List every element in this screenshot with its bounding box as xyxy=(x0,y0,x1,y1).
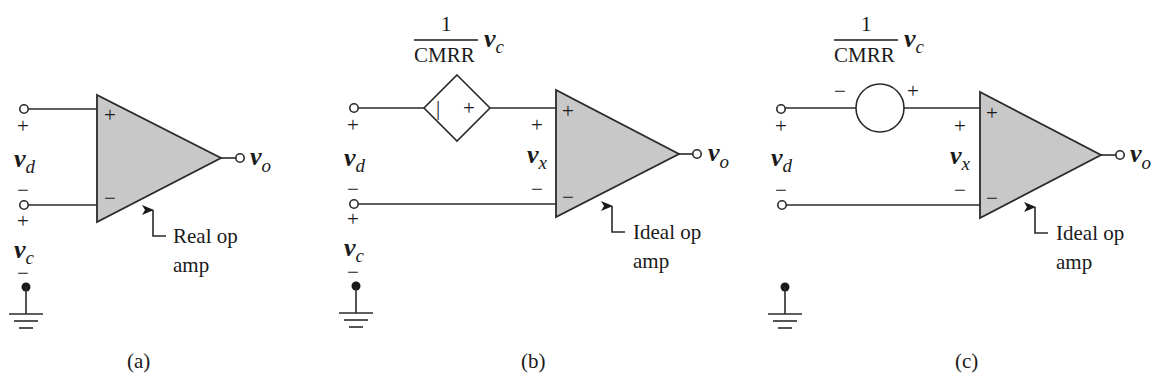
vd-label: vd xyxy=(344,143,366,176)
vx-minus-sign: − xyxy=(531,177,543,201)
panel-b-dependent-source-model: 1 CMRR vc | + + − + vd − + vx − + vc − xyxy=(339,12,729,373)
vx-label: vx xyxy=(527,140,548,173)
annotation-arrow-icon xyxy=(612,206,625,232)
ground-icon xyxy=(9,287,43,328)
fraction-vc: vc xyxy=(484,24,505,57)
vd-minus-sign: − xyxy=(17,178,29,202)
caption-a: (a) xyxy=(127,349,150,373)
vd-label: vd xyxy=(771,143,793,176)
vo-label: vo xyxy=(250,142,271,176)
vd-plus-sign: + xyxy=(347,113,359,137)
vo-label: vo xyxy=(1130,139,1151,173)
fraction-vc: vc xyxy=(904,24,925,57)
source-right-sign: + xyxy=(907,79,919,103)
ground-icon xyxy=(768,287,802,328)
terminal-output[interactable] xyxy=(236,154,244,162)
opamp-plus-sign: + xyxy=(562,99,574,123)
source-left-sign: − xyxy=(834,79,846,103)
vd-label: vd xyxy=(14,144,36,177)
source-right-sign: + xyxy=(463,96,475,120)
vx-label: vx xyxy=(950,141,971,174)
dependent-source-diamond-icon xyxy=(424,75,490,141)
opamp-minus-sign: − xyxy=(562,185,574,209)
terminal-input-minus[interactable] xyxy=(778,201,786,209)
vx-plus-sign: + xyxy=(531,113,543,137)
vd-plus-sign: + xyxy=(17,114,29,138)
opamp-plus-sign: + xyxy=(104,103,116,127)
fraction-numerator: 1 xyxy=(441,12,452,36)
annotation-ideal-op: Ideal op xyxy=(1056,221,1124,245)
annotation-arrow-icon xyxy=(153,210,166,236)
voltage-source-circle-icon xyxy=(856,84,904,132)
vc-minus-sign: − xyxy=(17,261,29,285)
source-left-sign: | xyxy=(436,96,440,120)
terminal-input-plus[interactable] xyxy=(20,105,28,113)
vd-plus-sign: + xyxy=(775,114,787,138)
opamp-triangle-ideal xyxy=(556,90,679,217)
terminal-input-plus[interactable] xyxy=(350,104,358,112)
annotation-amp: amp xyxy=(1056,250,1092,274)
vc-plus-sign: + xyxy=(17,209,29,233)
opamp-plus-sign: + xyxy=(986,101,998,125)
vd-minus-sign: − xyxy=(347,177,359,201)
vx-minus-sign: − xyxy=(954,178,966,202)
annotation-amp: amp xyxy=(173,253,209,277)
panel-a-real-op-amp: + − + vd − + vc − vo Real op amp (a) xyxy=(9,95,271,373)
cmrr-opamp-figure: + − + vd − + vc − vo Real op amp (a) 1 xyxy=(0,0,1165,382)
ground-icon xyxy=(339,286,373,327)
opamp-triangle-ideal xyxy=(980,92,1101,218)
panel-c-independent-source-model: 1 CMRR vc − + + − + vd − + vx − xyxy=(768,12,1151,373)
fraction-denominator: CMRR xyxy=(834,43,895,67)
annotation-real-op: Real op xyxy=(173,224,238,248)
opamp-minus-sign: − xyxy=(104,186,116,210)
annotation-arrow-icon xyxy=(1035,207,1048,233)
vx-plus-sign: + xyxy=(954,114,966,138)
vo-label: vo xyxy=(708,138,729,172)
annotation-amp: amp xyxy=(633,249,669,273)
vc-plus-sign: + xyxy=(347,207,359,231)
terminal-input-minus[interactable] xyxy=(20,201,28,209)
fraction-numerator: 1 xyxy=(861,12,872,36)
vd-minus-sign: − xyxy=(775,178,787,202)
fraction-denominator: CMRR xyxy=(414,43,475,67)
terminal-output[interactable] xyxy=(693,150,701,158)
opamp-minus-sign: − xyxy=(986,186,998,210)
caption-b: (b) xyxy=(521,349,546,373)
annotation-ideal-op: Ideal op xyxy=(633,220,701,244)
terminal-input-plus[interactable] xyxy=(777,105,785,113)
caption-c: (c) xyxy=(955,349,978,373)
vc-minus-sign: − xyxy=(347,260,359,284)
terminal-output[interactable] xyxy=(1116,151,1124,159)
